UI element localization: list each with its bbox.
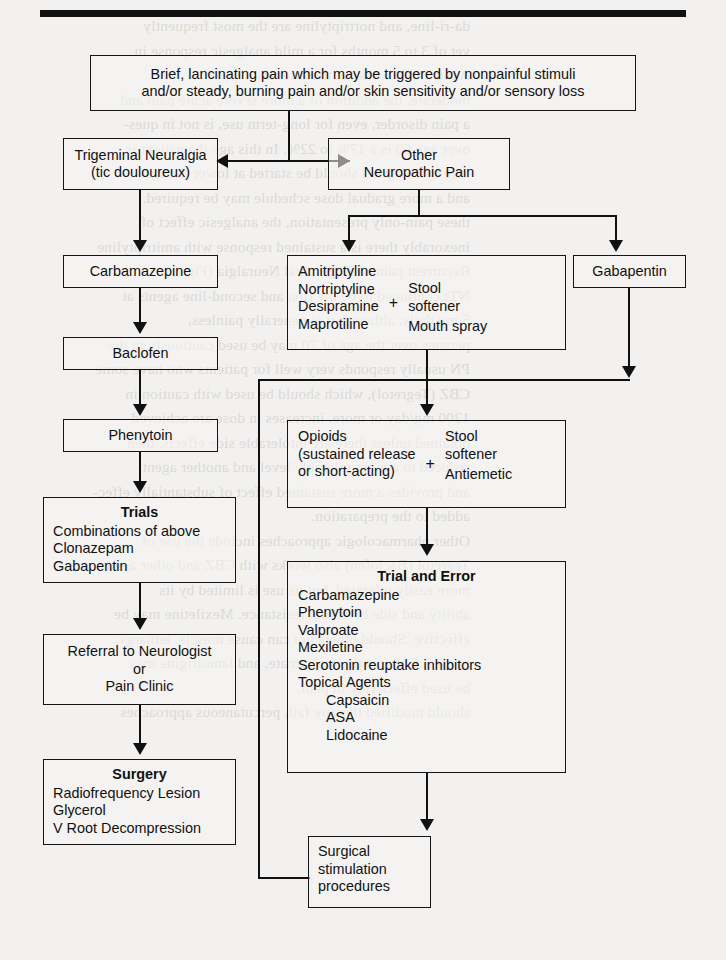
baclofen-label: Baclofen — [112, 345, 168, 363]
arrow-gabapentin-down — [622, 366, 636, 378]
connector-other-pain-split — [348, 215, 616, 217]
referral-line-2: or — [68, 661, 212, 679]
node-antidepressants: Amitriptyline Nortriptyline Desipramine … — [287, 255, 566, 350]
arrow-bus-to-opioids — [420, 404, 434, 416]
node-surgery: Surgery Radiofrequency Lesion Glycerol V… — [43, 759, 236, 845]
trials-item-1: Combinations of above — [53, 523, 226, 541]
opioids-plus-operator: + — [416, 428, 445, 500]
trials-title: Trials — [53, 504, 226, 522]
antidepressant-1: Amitriptyline — [298, 263, 379, 281]
connector-antidepressants-down — [426, 350, 428, 380]
carbamazepine-label: Carbamazepine — [90, 263, 192, 281]
referral-line-1: Referral to Neurologist — [68, 643, 212, 661]
trial-and-error-item-6: Topical Agents — [298, 674, 555, 692]
phenytoin-label: Phenytoin — [108, 427, 172, 445]
arrow-baclofen-to-phenytoin — [133, 404, 147, 416]
adjunct-stool: Stool — [408, 280, 555, 298]
arrow-trial-and-error-to-surgical-stim — [420, 819, 434, 831]
connector-left-rail-elbow — [258, 877, 310, 879]
opioids-adjunct-list: Stool softener Antiemetic — [445, 428, 555, 500]
top-rule — [40, 10, 686, 17]
node-entry: Brief, lancinating pain which may be tri… — [90, 55, 636, 111]
surgery-title: Surgery — [53, 766, 226, 784]
arrow-phenytoin-to-trials — [133, 481, 147, 493]
other-pain-line-2: Neuropathic Pain — [364, 164, 474, 182]
trial-and-error-item-1: Carbamazepine — [298, 587, 555, 605]
opioid-adjunct-softener: softener — [445, 446, 555, 464]
arrow-referral-to-surgery — [133, 743, 147, 755]
opioid-line-2: (sustained release — [298, 446, 416, 464]
opioids-drug-list: Opioids (sustained release or short-acti… — [298, 428, 416, 500]
arrow-carbamazepine-to-baclofen — [133, 322, 147, 334]
node-baclofen: Baclofen — [63, 337, 218, 370]
node-phenytoin: Phenytoin — [63, 419, 218, 452]
connector-merge-bus — [258, 379, 630, 381]
trigeminal-line-1: Trigeminal Neuralgia — [74, 147, 206, 165]
node-trigeminal-neuralgia: Trigeminal Neuralgia (tic douloureux) — [63, 138, 218, 190]
connector-entry-stem — [288, 111, 290, 161]
antidepressants-drug-list: Amitriptyline Nortriptyline Desipramine … — [298, 263, 379, 342]
trial-and-error-item-3: Valproate — [298, 622, 555, 640]
trials-item-2: Clonazepam — [53, 540, 226, 558]
opioid-adjunct-stool: Stool — [445, 428, 555, 446]
opioid-line-1: Opioids — [298, 428, 416, 446]
topical-agent-2: ASA — [298, 709, 555, 727]
antidepressant-3: Desipramine — [298, 298, 379, 316]
surgery-item-2: Glycerol — [53, 802, 226, 820]
connector-gabapentin-down — [628, 288, 630, 374]
node-trials: Trials Combinations of above Clonazepam … — [43, 497, 236, 583]
antidepressant-2: Nortriptyline — [298, 281, 379, 299]
entry-line-2: and/or steady, burning pain and/or skin … — [142, 83, 585, 101]
topical-agent-3: Lidocaine — [298, 727, 555, 745]
node-other-neuropathic-pain: Other Neuropathic Pain — [328, 138, 510, 190]
surgery-item-3: V Root Decompression — [53, 820, 226, 838]
arrow-trials-to-referral — [133, 618, 147, 630]
trial-and-error-item-4: Mexiletine — [298, 639, 555, 657]
node-carbamazepine: Carbamazepine — [63, 255, 218, 288]
gabapentin-label: Gabapentin — [592, 263, 666, 281]
node-surgical-stimulation-procedures: Surgical stimulation procedures — [308, 836, 431, 908]
trial-and-error-item-5: Serotonin reuptake inhibitors — [298, 657, 555, 675]
antidepressants-plus-operator: + — [379, 263, 408, 342]
trigeminal-line-2: (tic douloureux) — [74, 164, 206, 182]
arrow-to-antidepressants — [342, 240, 356, 252]
node-referral: Referral to Neurologist or Pain Clinic — [43, 634, 236, 705]
node-gabapentin: Gabapentin — [573, 255, 686, 288]
surgical-stim-line-3: procedures — [318, 878, 421, 896]
adjunct-softener: softener — [408, 298, 555, 316]
connector-trial-and-error-down — [426, 773, 428, 825]
topical-agent-1: Capsaicin — [298, 692, 555, 710]
arrow-trigeminal-to-carbamazepine — [133, 240, 147, 252]
arrow-opioids-to-trial-and-error — [420, 544, 434, 556]
opioid-adjunct-antiemetic: Antiemetic — [445, 463, 555, 484]
trial-and-error-item-2: Phenytoin — [298, 604, 555, 622]
connector-other-pain-stem — [418, 190, 420, 216]
referral-line-3: Pain Clinic — [68, 678, 212, 696]
antidepressants-adjunct-list: Stool softener Mouth spray — [408, 263, 555, 342]
node-trial-and-error: Trial and Error Carbamazepine Phenytoin … — [287, 561, 566, 773]
surgical-stim-line-1: Surgical — [318, 843, 421, 861]
other-pain-line-1: Other — [364, 147, 474, 165]
arrow-to-gabapentin — [609, 240, 623, 252]
surgery-item-1: Radiofrequency Lesion — [53, 785, 226, 803]
opioid-line-3: or short-acting) — [298, 463, 416, 481]
entry-line-1: Brief, lancinating pain which may be tri… — [142, 66, 585, 84]
antidepressant-4: Maprotiline — [298, 316, 379, 334]
adjunct-mouth-spray: Mouth spray — [408, 315, 555, 336]
connector-left-rail — [258, 379, 260, 879]
node-opioids: Opioids (sustained release or short-acti… — [287, 420, 566, 508]
trials-item-3: Gabapentin — [53, 558, 226, 576]
surgical-stim-line-2: stimulation — [318, 861, 421, 879]
trial-and-error-title: Trial and Error — [298, 568, 555, 586]
